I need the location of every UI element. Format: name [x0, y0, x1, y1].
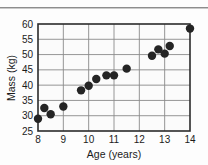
y-tick-label: 40 [22, 80, 34, 91]
x-axis-tick-labels: 891011121314 [35, 134, 196, 145]
data-point [166, 42, 174, 50]
x-tick-label: 11 [109, 134, 120, 145]
y-axis-title: Mass (kg) [5, 55, 17, 101]
x-tick-label: 8 [35, 134, 41, 145]
y-tick-label: 50 [22, 49, 34, 60]
y-tick-label: 45 [22, 64, 34, 75]
data-point [34, 115, 42, 123]
y-axis-tick-labels: 2530354045505560 [22, 19, 34, 137]
data-point [46, 110, 54, 118]
data-point [59, 102, 67, 110]
y-tick-label: 55 [22, 34, 34, 45]
x-tick-label: 12 [134, 134, 146, 145]
x-tick-label: 13 [159, 134, 171, 145]
y-tick-label: 35 [22, 95, 34, 106]
x-tick-label: 10 [83, 134, 95, 145]
data-point [84, 82, 92, 90]
x-axis-title: Age (years) [87, 148, 141, 160]
data-point [77, 86, 85, 94]
y-tick-label: 25 [22, 126, 34, 137]
y-tick-label: 30 [22, 110, 34, 121]
chart-canvas: 891011121314 2530354045505560 Age (years… [0, 0, 208, 165]
scatter-plot-figure: 891011121314 2530354045505560 Age (years… [0, 0, 208, 165]
data-point [40, 104, 48, 112]
data-point [122, 64, 130, 72]
data-point [92, 75, 100, 83]
data-point [160, 49, 168, 57]
x-tick-label: 14 [184, 134, 196, 145]
x-tick-label: 9 [61, 134, 67, 145]
data-point [186, 24, 194, 32]
y-tick-label: 60 [22, 19, 34, 30]
data-point [148, 52, 156, 60]
data-point [102, 71, 110, 79]
data-point [110, 71, 118, 79]
